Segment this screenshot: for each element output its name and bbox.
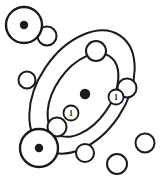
spin-marker-right-label: 1: [114, 93, 118, 102]
spin-marker-left-label: 1: [69, 109, 73, 118]
electron-outer-5: [107, 154, 127, 174]
spin-marker-left: 1: [64, 106, 79, 121]
atom-bottom-left-nucleus-dot: [35, 144, 43, 152]
atomic-orbit-figure: 1 1: [0, 0, 163, 184]
spin-marker-right: 1: [109, 90, 124, 105]
atom-bottom-left: [20, 129, 58, 167]
electron-outer-8: [19, 72, 36, 89]
electron-outer-4: [136, 134, 155, 153]
electron-outer-6: [76, 144, 94, 162]
atom-top-left-nucleus-dot: [20, 21, 28, 29]
electron-outer-2: [86, 41, 106, 61]
orbit-diagram-canvas: 1 1: [0, 0, 163, 184]
central-nucleus: [80, 89, 90, 99]
atom-top-left: [6, 7, 42, 43]
